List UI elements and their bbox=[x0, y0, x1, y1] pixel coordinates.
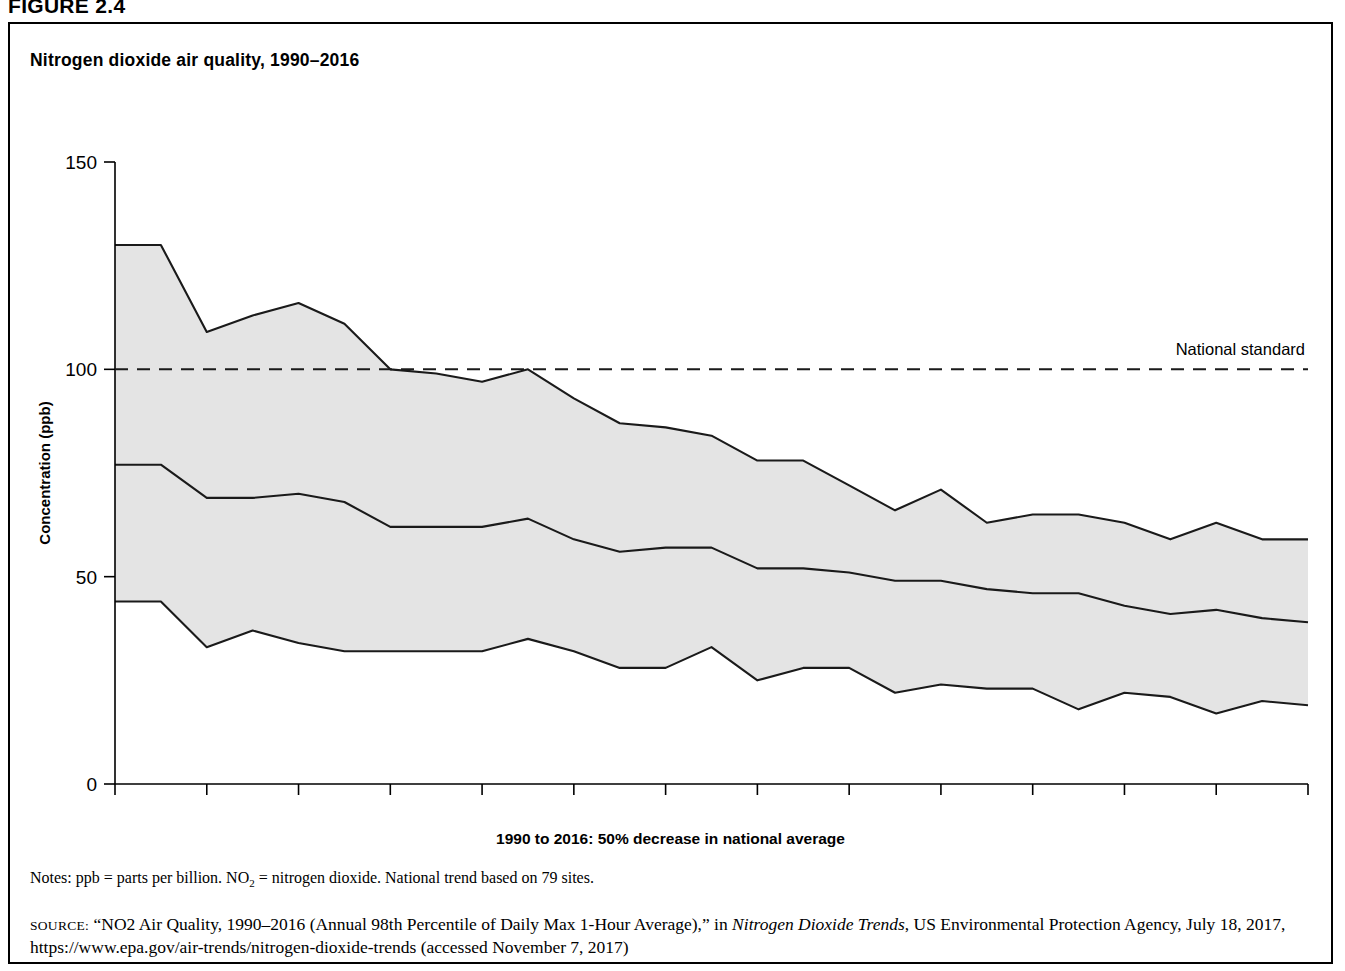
y-tick-label: 100 bbox=[65, 359, 97, 380]
y-axis-title: Concentration (ppb) bbox=[36, 401, 53, 544]
source-line: SOURCE: “NO2 Air Quality, 1990–2016 (Ann… bbox=[30, 913, 1307, 959]
notes-prefix: Notes: ppb = parts per billion. NO bbox=[30, 869, 249, 886]
source-text-part1: “NO2 Air Quality, 1990–2016 (Annual 98th… bbox=[89, 914, 732, 934]
chart-title: Nitrogen dioxide air quality, 1990–2016 bbox=[30, 50, 359, 71]
y-tick-label: 50 bbox=[76, 567, 97, 588]
chart-plot-area: 0501001501990199219941996199820002002200… bbox=[10, 102, 1331, 802]
source-publication-title: Nitrogen Dioxide Trends bbox=[732, 914, 905, 934]
nitrogen-dioxide-area-chart: 0501001501990199219941996199820002002200… bbox=[10, 102, 1331, 802]
percentile-band-fill bbox=[115, 245, 1308, 714]
y-tick-label: 0 bbox=[86, 774, 97, 795]
figure-frame: Nitrogen dioxide air quality, 1990–2016 … bbox=[8, 22, 1333, 964]
y-tick-label: 150 bbox=[65, 152, 97, 173]
source-label: SOURCE: bbox=[30, 918, 89, 933]
x-axis-caption: 1990 to 2016: 50% decrease in national a… bbox=[10, 830, 1331, 848]
notes-suffix: = nitrogen dioxide. National trend based… bbox=[255, 869, 594, 886]
notes-line: Notes: ppb = parts per billion. NO2 = ni… bbox=[30, 869, 594, 889]
figure-number-label: FIGURE 2.4 bbox=[8, 0, 125, 18]
national-standard-label: National standard bbox=[1176, 340, 1305, 358]
